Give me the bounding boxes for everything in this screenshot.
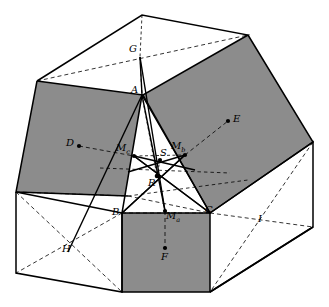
label-I: I bbox=[258, 214, 262, 224]
face-left-shaded bbox=[16, 81, 142, 196]
label-Mb: Mb bbox=[171, 141, 185, 154]
label-G: G bbox=[129, 44, 137, 54]
label-D: D bbox=[66, 138, 74, 148]
label-Mc: Mc bbox=[116, 143, 130, 156]
label-E: E bbox=[233, 114, 240, 124]
geometric-figure: G A E D Mc Mb S R B Ma C I H F bbox=[0, 0, 329, 307]
point-E bbox=[226, 119, 230, 123]
label-S: S bbox=[160, 148, 167, 158]
label-F: F bbox=[161, 252, 168, 262]
label-Ma: Ma bbox=[166, 211, 180, 224]
point-F bbox=[163, 246, 167, 250]
point-S bbox=[158, 158, 162, 162]
label-B: B bbox=[112, 207, 119, 217]
point-D bbox=[77, 144, 81, 148]
point-Mc bbox=[132, 154, 136, 158]
label-C: C bbox=[205, 205, 213, 215]
label-H: H bbox=[62, 244, 71, 254]
label-R: R bbox=[148, 178, 156, 188]
label-A: A bbox=[131, 85, 138, 95]
